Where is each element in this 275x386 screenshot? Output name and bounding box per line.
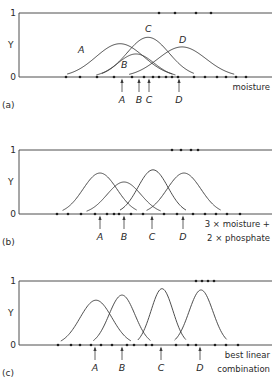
absence-dot [225, 76, 228, 79]
absence-dot [245, 76, 248, 79]
absence-dot [79, 76, 82, 79]
optimum-label-c: C [146, 94, 153, 105]
absence-dot [96, 76, 99, 79]
optimum-label-b: B [136, 94, 143, 105]
optimum-label-b: B [121, 231, 128, 242]
absence-dot [131, 76, 134, 79]
response-curve-d [147, 173, 221, 210]
curve-label-d: D [179, 34, 186, 45]
curve-label-b: B [121, 59, 128, 70]
y-tick-0: 0 [10, 72, 16, 82]
absence-dot [175, 344, 178, 347]
absence-dot [226, 213, 229, 216]
absence-dot [113, 213, 116, 216]
absence-dot [65, 76, 68, 79]
optimum-label-d: D [175, 94, 182, 105]
response-curve-d [129, 47, 234, 74]
absence-dot [106, 213, 109, 216]
x-axis-label: best linear [225, 350, 271, 360]
arrowhead-icon [120, 347, 123, 352]
absence-dot [80, 213, 83, 216]
panel-label: (b) [2, 237, 15, 247]
absence-dot [215, 213, 218, 216]
arrowhead-icon [150, 216, 153, 221]
absence-dot [145, 344, 148, 347]
presence-dot [197, 149, 200, 152]
optimum-label-b: B [119, 362, 126, 373]
absence-dot [111, 344, 114, 347]
curve-label-a: A [77, 44, 85, 55]
absence-dot [90, 344, 93, 347]
arrowhead-icon [159, 347, 162, 352]
panel-label: (c) [2, 368, 14, 378]
arrowhead-icon [177, 79, 180, 84]
presence-dot [195, 280, 198, 283]
response-curve-c [138, 289, 186, 340]
absence-dot [187, 344, 190, 347]
absence-dot [79, 344, 82, 347]
absence-dot [192, 213, 195, 216]
arrowhead-icon [198, 347, 201, 352]
optimum-label-a: A [118, 94, 126, 105]
arrowhead-icon [93, 347, 96, 352]
presence-dot [201, 280, 204, 283]
absence-dot [237, 344, 240, 347]
absence-dot [143, 76, 146, 79]
absence-dot [100, 344, 103, 347]
presence-dot [190, 149, 193, 152]
panel-a: 10YABCDABCDmoisture(a) [2, 8, 272, 110]
panel-b: 10YABCD3 × moisture +2 × phosphate(b) [2, 145, 272, 247]
presence-dot [213, 280, 216, 283]
optimum-label-d: D [179, 231, 186, 242]
absence-dot [56, 213, 59, 216]
absence-dot [67, 213, 70, 216]
presence-dot [158, 12, 161, 15]
optimum-label-d: D [196, 362, 203, 373]
presence-dot [210, 12, 213, 15]
response-curve-d [175, 290, 227, 340]
arrowhead-icon [122, 216, 125, 221]
y-tick-1: 1 [10, 145, 16, 155]
absence-dot [163, 213, 166, 216]
y-axis-label: Y [7, 40, 14, 50]
response-curve-a [61, 300, 131, 341]
absence-dot [176, 213, 179, 216]
y-axis-label: Y [7, 177, 14, 187]
absence-dot [204, 76, 207, 79]
absence-dot [158, 76, 161, 79]
absence-dot [151, 344, 154, 347]
presence-dot [171, 149, 174, 152]
optimum-label-a: A [96, 231, 104, 242]
arrowhead-icon [137, 79, 140, 84]
y-tick-1: 1 [10, 8, 16, 18]
x-axis-label: 2 × phosphate [207, 233, 270, 243]
absence-dot [94, 213, 97, 216]
absence-dot [204, 213, 207, 216]
arrowhead-icon [98, 216, 101, 221]
absence-dot [214, 344, 217, 347]
absence-dot [216, 76, 219, 79]
y-tick-0: 0 [10, 340, 16, 350]
absence-dot [225, 344, 228, 347]
absence-dot [142, 213, 145, 216]
curve-label-c: C [145, 23, 152, 34]
absence-dot [235, 76, 238, 79]
y-tick-1: 1 [10, 276, 16, 286]
panel-label: (a) [2, 100, 15, 110]
presence-dot [174, 12, 177, 15]
presence-dot [207, 280, 210, 283]
absence-dot [239, 213, 242, 216]
y-axis-label: Y [7, 308, 14, 318]
absence-dot [165, 76, 168, 79]
absence-dot [130, 213, 133, 216]
response-curve-a [63, 173, 137, 210]
absence-dot [126, 344, 129, 347]
absence-dot [193, 76, 196, 79]
x-axis-label: moisture [232, 82, 270, 92]
optimum-label-c: C [149, 231, 156, 242]
y-tick-0: 0 [10, 209, 16, 219]
presence-dot [195, 12, 198, 15]
response-curve-b [87, 182, 161, 211]
arrowhead-icon [181, 216, 184, 221]
response-curve-c [120, 170, 186, 210]
